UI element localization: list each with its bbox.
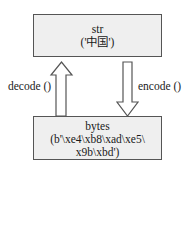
encode-down-arrow-icon: [117, 62, 138, 116]
bytes-box-value-line2: x9b\xbd'): [34, 146, 161, 159]
bytes-box: bytes (b'\xe4\xb8\xad\xe5\ x9b\xbd'): [33, 116, 162, 160]
decode-label: decode (): [8, 80, 51, 92]
encode-label: encode (): [138, 80, 181, 92]
decode-up-arrow-icon: [51, 62, 72, 116]
bytes-box-value-line1: (b'\xe4\xb8\xad\xe5\: [34, 133, 161, 146]
bytes-box-title: bytes: [34, 120, 161, 133]
